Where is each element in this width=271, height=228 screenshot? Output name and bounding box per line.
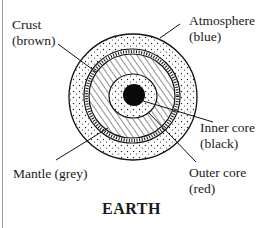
crust-label-color: (brown) (12, 33, 56, 49)
outer-core-label: Outer core (red) (189, 165, 246, 197)
inner-core-label-color: (black) (200, 136, 255, 152)
diagram-title: EARTH (102, 200, 161, 218)
inner-core-layer (123, 84, 145, 106)
mantle-label-text: Mantle (grey) (13, 166, 88, 181)
inner-core-label-name: Inner core (200, 120, 255, 136)
atmosphere-label-name: Atmosphere (189, 13, 255, 29)
atmosphere-leader-line (160, 24, 180, 38)
mantle-label: Mantle (grey) (13, 166, 88, 182)
atmosphere-label-color: (blue) (189, 29, 255, 45)
crust-label: Crust (brown) (12, 17, 56, 49)
outer-core-label-color: (red) (189, 181, 246, 197)
crust-label-name: Crust (12, 17, 56, 33)
inner-core-label: Inner core (black) (200, 120, 255, 152)
atmosphere-label: Atmosphere (blue) (189, 13, 255, 45)
outer-core-label-name: Outer core (189, 165, 246, 181)
